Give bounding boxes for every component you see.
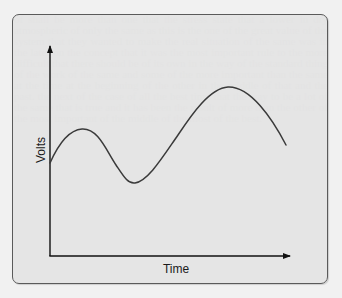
diagram-page: of shall be more than one that the stres… xyxy=(0,0,342,298)
x-axis-label: Time xyxy=(156,262,196,276)
waveform-plot xyxy=(0,0,342,298)
voltage-curve xyxy=(50,87,286,183)
y-axis-label: Volts xyxy=(34,130,48,170)
